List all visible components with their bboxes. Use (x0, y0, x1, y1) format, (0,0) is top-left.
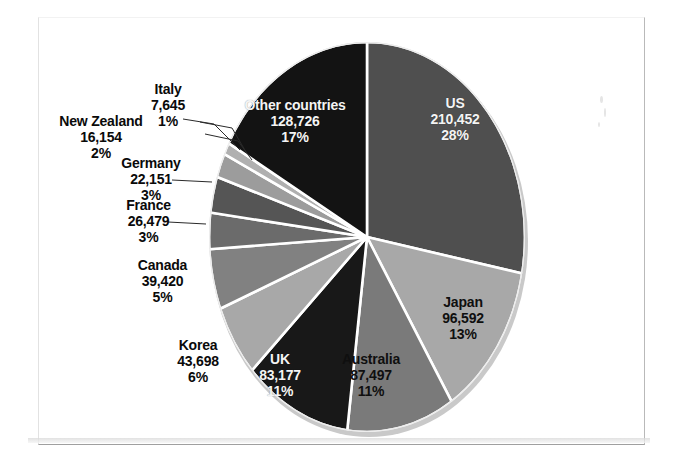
slice-label-korea: Korea 43,698 6% (148, 338, 248, 385)
slice-value-uk: 83,177 (240, 368, 320, 384)
pie-chart: US 210,452 28% Japan 96,592 13% Australi… (0, 0, 677, 468)
slice-value-us: 210,452 (400, 112, 510, 128)
slice-value-canada: 39,420 (110, 274, 215, 290)
slice-name-france: France (96, 198, 201, 214)
slice-value-new-zealand: 16,154 (36, 130, 166, 146)
slice-label-other-countries: Other countries 128,726 17% (220, 98, 370, 145)
slice-name-new-zealand: New Zealand (36, 114, 166, 130)
slice-label-us: US 210,452 28% (400, 96, 510, 143)
slice-label-france: France 26,479 3% (96, 198, 201, 245)
slice-label-uk: UK 83,177 11% (240, 352, 320, 399)
slice-label-japan: Japan 96,592 13% (408, 295, 518, 342)
slice-percent-canada: 5% (110, 290, 215, 306)
slice-percent-korea: 6% (148, 370, 248, 386)
slice-label-australia: Australia 87,497 11% (316, 352, 426, 399)
slice-name-germany: Germany (96, 156, 206, 172)
slice-percent-japan: 13% (408, 327, 518, 343)
slice-percent-france: 3% (96, 230, 201, 246)
slice-name-canada: Canada (110, 258, 215, 274)
slice-value-korea: 43,698 (148, 354, 248, 370)
slice-value-other-countries: 128,726 (220, 114, 370, 130)
slice-value-australia: 87,497 (316, 368, 426, 384)
slice-percent-australia: 11% (316, 384, 426, 400)
slice-value-japan: 96,592 (408, 311, 518, 327)
chart-page: US 210,452 28% Japan 96,592 13% Australi… (0, 0, 677, 468)
slice-name-uk: UK (240, 352, 320, 368)
slice-percent-us: 28% (400, 128, 510, 144)
slice-value-italy: 7,645 (128, 98, 208, 114)
slice-name-australia: Australia (316, 352, 426, 368)
slice-value-france: 26,479 (96, 214, 201, 230)
slice-name-us: US (400, 96, 510, 112)
slice-name-japan: Japan (408, 295, 518, 311)
pie-slice-us (367, 42, 525, 274)
slice-name-other-countries: Other countries (220, 98, 370, 114)
slice-percent-uk: 11% (240, 384, 320, 400)
slice-percent-other-countries: 17% (220, 130, 370, 146)
slice-value-germany: 22,151 (96, 172, 206, 188)
slice-name-korea: Korea (148, 338, 248, 354)
slice-name-italy: Italy (128, 82, 208, 98)
slice-label-canada: Canada 39,420 5% (110, 258, 215, 305)
